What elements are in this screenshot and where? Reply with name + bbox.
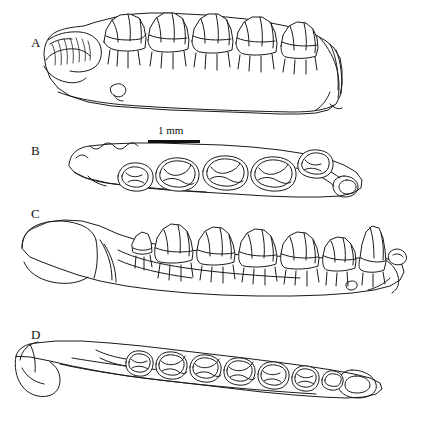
panel-label-a: A bbox=[31, 35, 41, 51]
panel-a-drawing bbox=[44, 13, 342, 114]
mandible-drawings bbox=[0, 0, 422, 422]
scale-bar-label: 1 mm bbox=[158, 124, 183, 136]
panel-c-drawing bbox=[22, 220, 406, 296]
figure-plate: A B C D 1 mm bbox=[0, 0, 422, 422]
panel-label-c: C bbox=[31, 206, 40, 222]
panel-d-drawing bbox=[15, 341, 382, 398]
panel-label-d: D bbox=[31, 327, 41, 343]
panel-label-b: B bbox=[31, 143, 40, 159]
panel-b-drawing bbox=[69, 143, 362, 197]
scale-bar bbox=[148, 140, 200, 143]
